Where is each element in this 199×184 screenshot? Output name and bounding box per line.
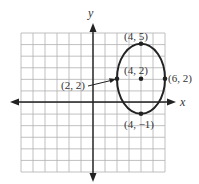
label-left: (2, 2) (61, 79, 85, 92)
point-bottom (139, 111, 144, 116)
leader-line (88, 80, 113, 86)
y-axis-up-arrow-icon (90, 23, 97, 32)
label-bottom: (4, −1) (124, 118, 154, 131)
graph: x y (4, 5) (4, 2) (6, 2) (2, 2) (4, −1) (0, 0, 199, 184)
point-right (163, 76, 168, 81)
y-axis-down-arrow-icon (90, 173, 97, 182)
label-right: (6, 2) (168, 72, 192, 85)
leader-arrow-icon (109, 78, 116, 83)
label-center: (4, 2) (124, 64, 148, 77)
x-axis-label: x (179, 95, 186, 109)
point-center (139, 76, 144, 81)
point-left (115, 76, 120, 81)
label-top: (4, 5) (124, 30, 148, 43)
point-top (139, 41, 144, 46)
x-axis-left-arrow-icon (10, 99, 19, 106)
x-axis-right-arrow-icon (167, 99, 176, 106)
y-axis-label: y (87, 6, 94, 20)
